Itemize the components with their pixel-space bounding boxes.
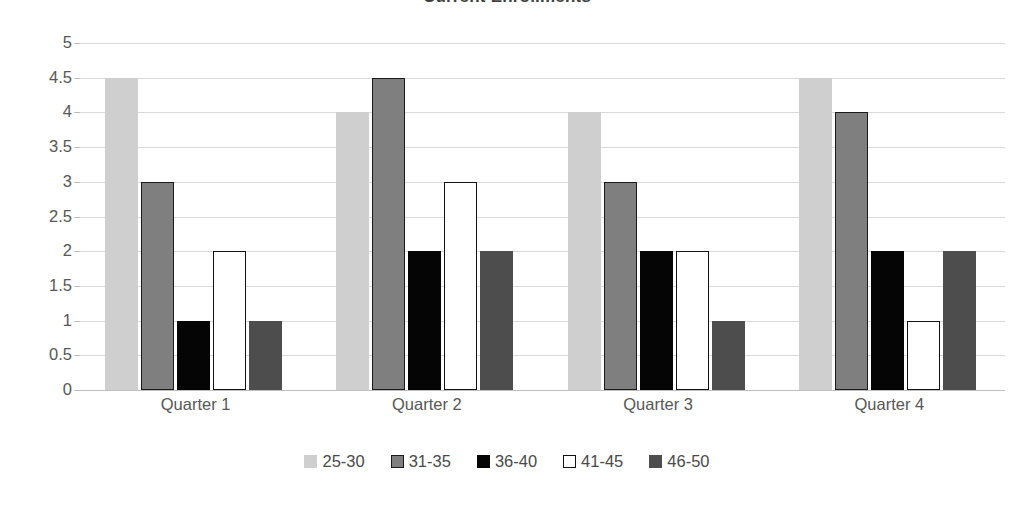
bar [177,321,210,390]
bar [372,78,405,390]
legend-label: 46-50 [667,452,709,471]
bar [568,112,601,390]
y-axis-tick-label: 3.5 [14,137,72,156]
legend-label: 25-30 [322,452,364,471]
bar [249,321,282,390]
y-axis-tick-label: 3 [14,172,72,191]
legend-item[interactable]: 25-30 [304,452,364,471]
bar [213,251,246,390]
bar [799,78,832,390]
bar [676,251,709,390]
chart-title: Current Enrollments [0,0,1014,4]
legend-item[interactable]: 31-35 [391,452,451,471]
y-axis-tick-label: 2 [14,241,72,260]
bar-group [311,43,542,390]
y-axis-tick-label: 1.5 [14,276,72,295]
legend-item[interactable]: 36-40 [477,452,537,471]
chart-legend: 25-3031-3536-4041-4546-50 [0,452,1014,471]
bar [480,251,513,390]
legend-swatch-icon [304,455,317,468]
bar [444,182,477,390]
bar [408,251,441,390]
bar [835,112,868,390]
legend-item[interactable]: 46-50 [649,452,709,471]
legend-swatch-icon [649,455,662,468]
y-axis-tick-label: 2.5 [14,207,72,226]
legend-item[interactable]: 41-45 [563,452,623,471]
bar-group [543,43,774,390]
y-axis-tick-label: 4 [14,102,72,121]
bar [336,112,369,390]
legend-label: 36-40 [495,452,537,471]
y-axis-tick-label: 1 [14,311,72,330]
bar-group [774,43,1005,390]
legend-label: 41-45 [581,452,623,471]
x-axis-tick-label: Quarter 1 [80,395,311,414]
x-axis-tick-label: Quarter 4 [774,395,1005,414]
y-axis-tick-label: 0.5 [14,345,72,364]
bar [712,321,745,390]
plot-area: Quarter 1Quarter 2Quarter 3Quarter 4 [80,43,1005,390]
bar [141,182,174,390]
y-axis-tick-mark [74,390,80,391]
y-axis-tick-label: 5 [14,33,72,52]
legend-swatch-icon [563,455,576,468]
x-axis-tick-label: Quarter 2 [311,395,542,414]
bar [907,321,940,390]
x-axis-tick-label: Quarter 3 [543,395,774,414]
y-axis-tick-label: 0 [14,380,72,399]
bar [105,78,138,390]
bar [943,251,976,390]
bar-group [80,43,311,390]
legend-label: 31-35 [409,452,451,471]
legend-swatch-icon [391,455,404,468]
bar [640,251,673,390]
legend-swatch-icon [477,455,490,468]
bar [871,251,904,390]
gridline [80,390,1005,391]
bar [604,182,637,390]
y-axis-tick-label: 4.5 [14,68,72,87]
